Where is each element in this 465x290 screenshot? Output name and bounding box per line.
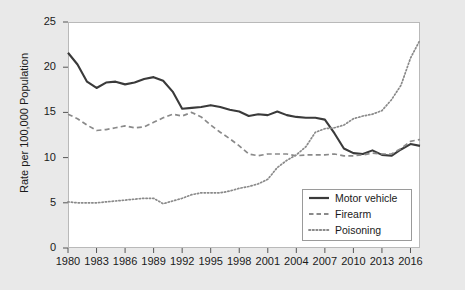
chart-figure: 0510152025 19801983198619891992199519982… (0, 0, 465, 290)
series-line (68, 40, 420, 204)
legend-swatch-solid-icon (308, 193, 330, 203)
legend-swatch-dotted-icon (308, 225, 330, 235)
legend-item-firearm: Firearm (303, 206, 411, 222)
legend-label: Firearm (335, 209, 371, 220)
series-line (68, 112, 420, 155)
x-tick-label: 2016 (393, 256, 427, 267)
y-tick-label: 0 (34, 242, 56, 253)
y-tick-label: 15 (34, 106, 56, 117)
chart-legend: Motor vehicle Firearm Poisoning (302, 189, 412, 241)
legend-item-poisoning: Poisoning (303, 222, 411, 238)
legend-item-motor-vehicle: Motor vehicle (303, 190, 411, 206)
series-lines (68, 40, 420, 204)
y-axis-title: Rate per 100,000 Population (18, 38, 30, 208)
legend-label: Poisoning (335, 225, 381, 236)
y-tick-label: 5 (34, 197, 56, 208)
series-line (68, 53, 420, 156)
y-tick-label: 25 (34, 16, 56, 27)
y-tick-label: 20 (34, 61, 56, 72)
legend-label: Motor vehicle (335, 193, 397, 204)
y-tick-label: 10 (34, 152, 56, 163)
legend-swatch-dashed-icon (308, 209, 330, 219)
chart-canvas (0, 0, 465, 290)
